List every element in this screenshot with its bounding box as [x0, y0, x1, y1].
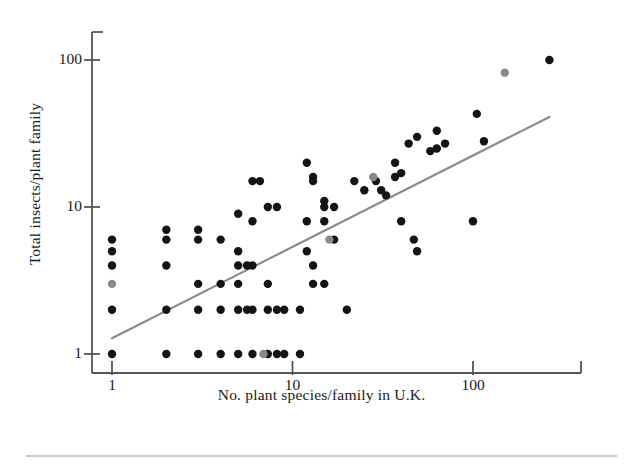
- data-point: [108, 350, 116, 358]
- data-point: [303, 247, 311, 255]
- data-point: [162, 306, 170, 314]
- data-point: [234, 247, 242, 255]
- data-point: [216, 235, 224, 243]
- data-point: [216, 280, 224, 288]
- data-point: [397, 217, 405, 225]
- data-point: [234, 280, 242, 288]
- x-tick-label-100: 100: [443, 376, 503, 394]
- y-tick-label-1: 1: [24, 344, 82, 362]
- data-point: [194, 226, 202, 234]
- data-point: [320, 217, 328, 225]
- data-point: [256, 177, 264, 185]
- black-points-group: [108, 56, 554, 358]
- data-point: [162, 261, 170, 269]
- data-point: [433, 127, 441, 135]
- data-point: [296, 306, 304, 314]
- data-point: [303, 159, 311, 167]
- data-point: [162, 226, 170, 234]
- data-point: [309, 177, 317, 185]
- data-point: [264, 280, 272, 288]
- data-point: [330, 203, 338, 211]
- data-point: [413, 133, 421, 141]
- data-point: [343, 306, 351, 314]
- data-point: [108, 261, 116, 269]
- data-point: [350, 177, 358, 185]
- trendline: [112, 117, 549, 338]
- data-point: [234, 350, 242, 358]
- x-tick-label-10: 10: [263, 376, 323, 394]
- figure-panel: Total insects/plant family No. plant spe…: [0, 0, 643, 472]
- y-tick-label-10: 10: [24, 197, 82, 215]
- y-tick-label-100: 100: [24, 50, 82, 68]
- data-point: [382, 191, 390, 199]
- data-point: [325, 235, 333, 243]
- data-point: [501, 68, 509, 76]
- data-point: [441, 139, 449, 147]
- data-point: [320, 280, 328, 288]
- data-point: [480, 137, 488, 145]
- data-point: [264, 203, 272, 211]
- data-point: [309, 280, 317, 288]
- data-point: [320, 203, 328, 211]
- data-point: [473, 110, 481, 118]
- data-point: [194, 280, 202, 288]
- data-point: [280, 306, 288, 314]
- data-point: [194, 306, 202, 314]
- data-point: [216, 350, 224, 358]
- data-point: [545, 56, 553, 64]
- data-point: [194, 235, 202, 243]
- data-point: [108, 306, 116, 314]
- data-point: [280, 350, 288, 358]
- data-point: [108, 235, 116, 243]
- data-point: [216, 306, 224, 314]
- data-point: [162, 350, 170, 358]
- data-point: [296, 350, 304, 358]
- y-axis-label: Total insects/plant family: [26, 19, 44, 349]
- data-point: [264, 306, 272, 314]
- x-tick-label-1: 1: [82, 376, 142, 394]
- data-point: [194, 350, 202, 358]
- data-point: [404, 139, 412, 147]
- data-point: [259, 350, 267, 358]
- data-point: [248, 350, 256, 358]
- data-point: [273, 306, 281, 314]
- data-point: [309, 261, 317, 269]
- data-point: [248, 261, 256, 269]
- gray-points-group: [108, 68, 509, 358]
- data-point: [360, 186, 368, 194]
- data-point: [413, 247, 421, 255]
- data-point: [469, 217, 477, 225]
- data-point: [369, 173, 377, 181]
- data-point: [248, 306, 256, 314]
- data-point: [108, 280, 116, 288]
- data-point: [273, 203, 281, 211]
- data-point: [397, 169, 405, 177]
- data-point: [410, 235, 418, 243]
- data-point: [273, 350, 281, 358]
- data-point: [162, 235, 170, 243]
- data-point: [391, 159, 399, 167]
- data-point: [234, 210, 242, 218]
- data-point: [248, 177, 256, 185]
- data-point: [108, 247, 116, 255]
- data-point: [234, 306, 242, 314]
- data-point: [303, 217, 311, 225]
- data-point: [248, 217, 256, 225]
- data-point: [433, 144, 441, 152]
- data-point: [234, 261, 242, 269]
